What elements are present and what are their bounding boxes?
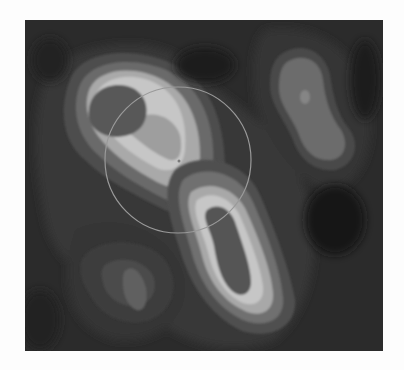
center-marker	[178, 160, 181, 163]
contour-map	[25, 20, 383, 351]
contour-image	[25, 20, 383, 351]
